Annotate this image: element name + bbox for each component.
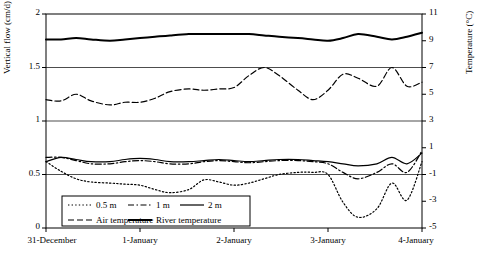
y-tick-label-right: 11: [429, 7, 438, 17]
legend-label-0-5-m: 0.5 m: [96, 200, 117, 210]
y-tick-label-right: -3: [429, 194, 437, 204]
chart-container: Vertical flow (cm/d) Temperature (°C) 0.…: [0, 0, 478, 271]
y-tick-label-right: 3: [429, 114, 434, 124]
legend-label-2-m: 2 m: [208, 200, 222, 210]
y-tick-label-left: 0: [20, 221, 40, 231]
legend-label-river-temperature: River temperature: [156, 215, 221, 225]
x-tick-label: 1-January: [95, 235, 185, 245]
y-tick-label-right: -5: [429, 221, 437, 231]
x-tick-label: 3-January: [283, 235, 373, 245]
y-tick-label-left: 1: [20, 114, 40, 124]
y-tick-label-right: 9: [429, 34, 434, 44]
y-tick-label-left: 1.5: [20, 61, 40, 71]
x-tick-label: 31-December: [7, 235, 97, 245]
y-tick-label-right: 5: [429, 87, 434, 97]
y-tick-label-right: -1: [429, 168, 437, 178]
x-tick-label: 2-January: [189, 235, 279, 245]
legend-label-1-m: 1 m: [156, 200, 170, 210]
plot-area: 0.5 m1 m2 mAir temperatureRiver temperat…: [42, 14, 426, 232]
series-line-river-temperature: [46, 33, 422, 41]
chart-svg: 0.5 m1 m2 mAir temperatureRiver temperat…: [0, 0, 478, 271]
y-tick-label-left: 2: [20, 7, 40, 17]
series-line-air-temperature: [46, 68, 422, 105]
y-tick-label-right: 7: [429, 61, 434, 71]
y-tick-label-right: 1: [429, 141, 434, 151]
series-line-2-m: [46, 153, 422, 166]
x-tick-label: 4-January: [371, 235, 461, 245]
y-tick-label-left: 0.5: [20, 168, 40, 178]
